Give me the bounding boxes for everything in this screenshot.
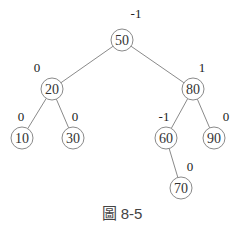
tree-edge bbox=[169, 149, 178, 178]
tree-node-90: 90 bbox=[203, 127, 225, 149]
balance-factor: 0 bbox=[34, 60, 41, 75]
node-value: 20 bbox=[45, 82, 59, 97]
tree-edge bbox=[197, 99, 209, 128]
balance-factor: -1 bbox=[159, 109, 170, 124]
node-value: 60 bbox=[159, 131, 173, 146]
tree-node-50: 50 bbox=[111, 29, 133, 51]
tree-node-60: 60 bbox=[155, 127, 177, 149]
node-value: 30 bbox=[66, 131, 80, 146]
tree-node-20: 20 bbox=[41, 78, 63, 100]
tree-node-30: 30 bbox=[62, 127, 84, 149]
tree-node-10: 10 bbox=[11, 127, 33, 149]
node-value: 10 bbox=[15, 131, 29, 146]
tree-edge bbox=[131, 46, 184, 83]
balance-factor: 1 bbox=[199, 60, 206, 75]
node-value: 50 bbox=[115, 33, 129, 48]
tree-edge bbox=[61, 46, 113, 82]
tree-edge bbox=[171, 99, 187, 129]
tree-diagram: 50-120080110030060-1900700 bbox=[0, 0, 244, 226]
balance-factor: 0 bbox=[223, 109, 230, 124]
node-value: 80 bbox=[186, 82, 200, 97]
tree-node-70: 70 bbox=[170, 177, 192, 199]
avl-tree-figure: 50-120080110030060-1900700 圖 8-5 bbox=[0, 0, 244, 226]
node-value: 90 bbox=[207, 131, 221, 146]
balance-factor: 0 bbox=[187, 159, 194, 174]
figure-caption: 圖 8-5 bbox=[0, 202, 244, 223]
tree-node-80: 80 bbox=[182, 78, 204, 100]
tree-edge bbox=[28, 98, 47, 128]
balance-factor: 0 bbox=[72, 109, 79, 124]
balance-factor: 0 bbox=[18, 109, 25, 124]
node-value: 70 bbox=[174, 181, 188, 196]
balance-factor: -1 bbox=[131, 6, 142, 21]
tree-edge bbox=[56, 99, 68, 128]
